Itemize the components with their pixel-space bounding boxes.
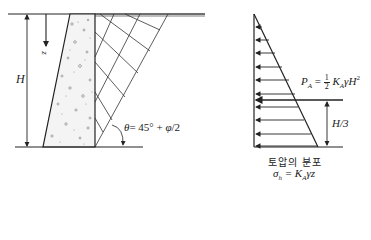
- force-gamma-H: γH: [344, 75, 356, 87]
- angle-equals: = 45° +: [129, 121, 165, 133]
- stress-equals: = K: [282, 167, 302, 179]
- stress-formula: σh = KAγz: [273, 167, 315, 182]
- stress-gamma-z: γz: [306, 167, 315, 179]
- depth-z-label: z: [40, 51, 50, 55]
- angle-theta-label: θ= 45° + φ/2: [124, 121, 180, 133]
- force-K: K: [330, 75, 340, 87]
- force-P: P: [301, 75, 308, 87]
- angle-theta-arc: [112, 125, 123, 145]
- resultant-force-label: PA = 12 KAγH2: [301, 74, 360, 91]
- force-equals: =: [312, 75, 324, 87]
- h-third-label: H/3: [332, 117, 349, 129]
- force-superscript: 2: [356, 74, 360, 82]
- height-label: H: [16, 72, 25, 87]
- angle-suffix: /2: [172, 121, 181, 133]
